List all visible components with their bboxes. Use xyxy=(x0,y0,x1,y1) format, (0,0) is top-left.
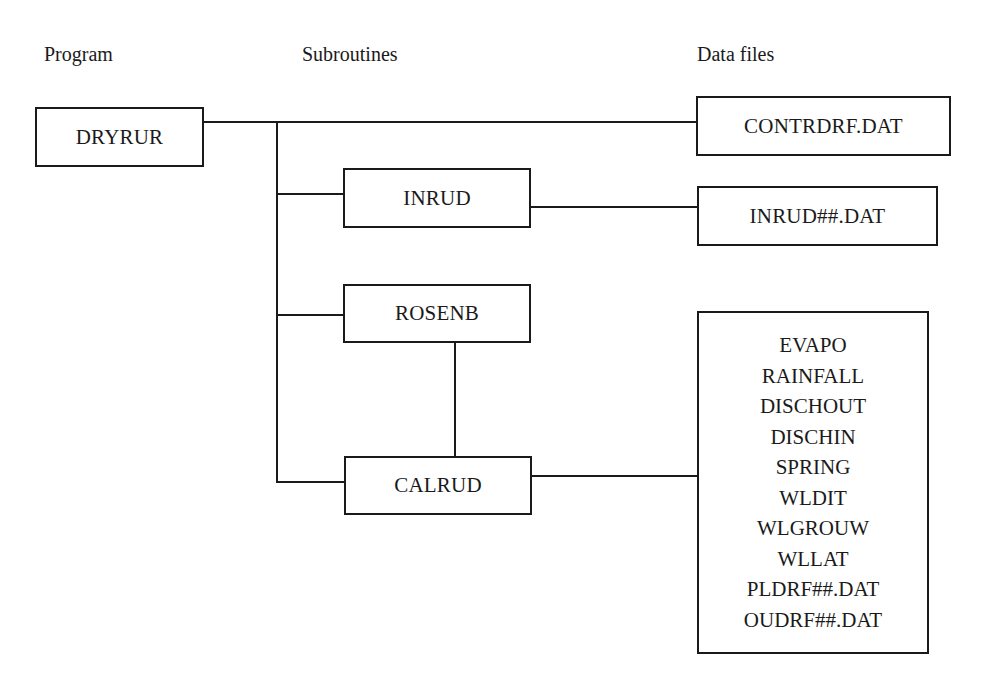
datafile-item: DISCHOUT xyxy=(760,391,866,422)
datafile-item: SPRING xyxy=(776,452,851,483)
subroutine-label: CALRUD xyxy=(394,473,482,498)
datafile-label: CONTRDRF.DAT xyxy=(744,114,903,139)
datafile-box-inrud-dat: INRUD##.DAT xyxy=(697,186,938,246)
connector-trunk-rosenb xyxy=(276,314,344,316)
datafile-box-contrdrf: CONTRDRF.DAT xyxy=(696,96,951,156)
datafile-item: WLGROUW xyxy=(757,513,869,544)
connector-rosenb-calrud xyxy=(454,342,456,457)
datafile-list-calrud: EVAPO RAINFALL DISCHOUT DISCHIN SPRING W… xyxy=(697,311,929,654)
program-box-dryrur: DRYRUR xyxy=(35,107,204,167)
connector-trunk xyxy=(276,121,278,483)
subroutine-label: ROSENB xyxy=(395,301,479,326)
datafile-item: DISCHIN xyxy=(770,422,855,453)
connector-calrud-datafiles xyxy=(531,475,698,477)
column-header-data-files: Data files xyxy=(697,42,774,66)
subroutine-label: INRUD xyxy=(403,186,471,211)
connector-inrud-inrud-dat xyxy=(530,206,698,208)
subroutine-box-inrud: INRUD xyxy=(343,168,531,228)
datafile-item: WLDIT xyxy=(779,483,847,514)
datafile-item: OUDRF##.DAT xyxy=(744,605,882,636)
column-header-subroutines: Subroutines xyxy=(302,42,398,66)
connector-trunk-calrud xyxy=(276,481,345,483)
column-header-program: Program xyxy=(44,42,113,66)
datafile-item: PLDRF##.DAT xyxy=(747,574,879,605)
subroutine-box-calrud: CALRUD xyxy=(344,456,532,515)
datafile-item: RAINFALL xyxy=(762,361,864,392)
datafile-item: EVAPO xyxy=(779,330,846,361)
datafile-item: WLLAT xyxy=(777,544,848,575)
connector-trunk-inrud xyxy=(276,193,344,195)
datafile-label: INRUD##.DAT xyxy=(750,204,886,229)
subroutine-box-rosenb: ROSENB xyxy=(343,284,531,343)
program-label: DRYRUR xyxy=(76,125,164,150)
